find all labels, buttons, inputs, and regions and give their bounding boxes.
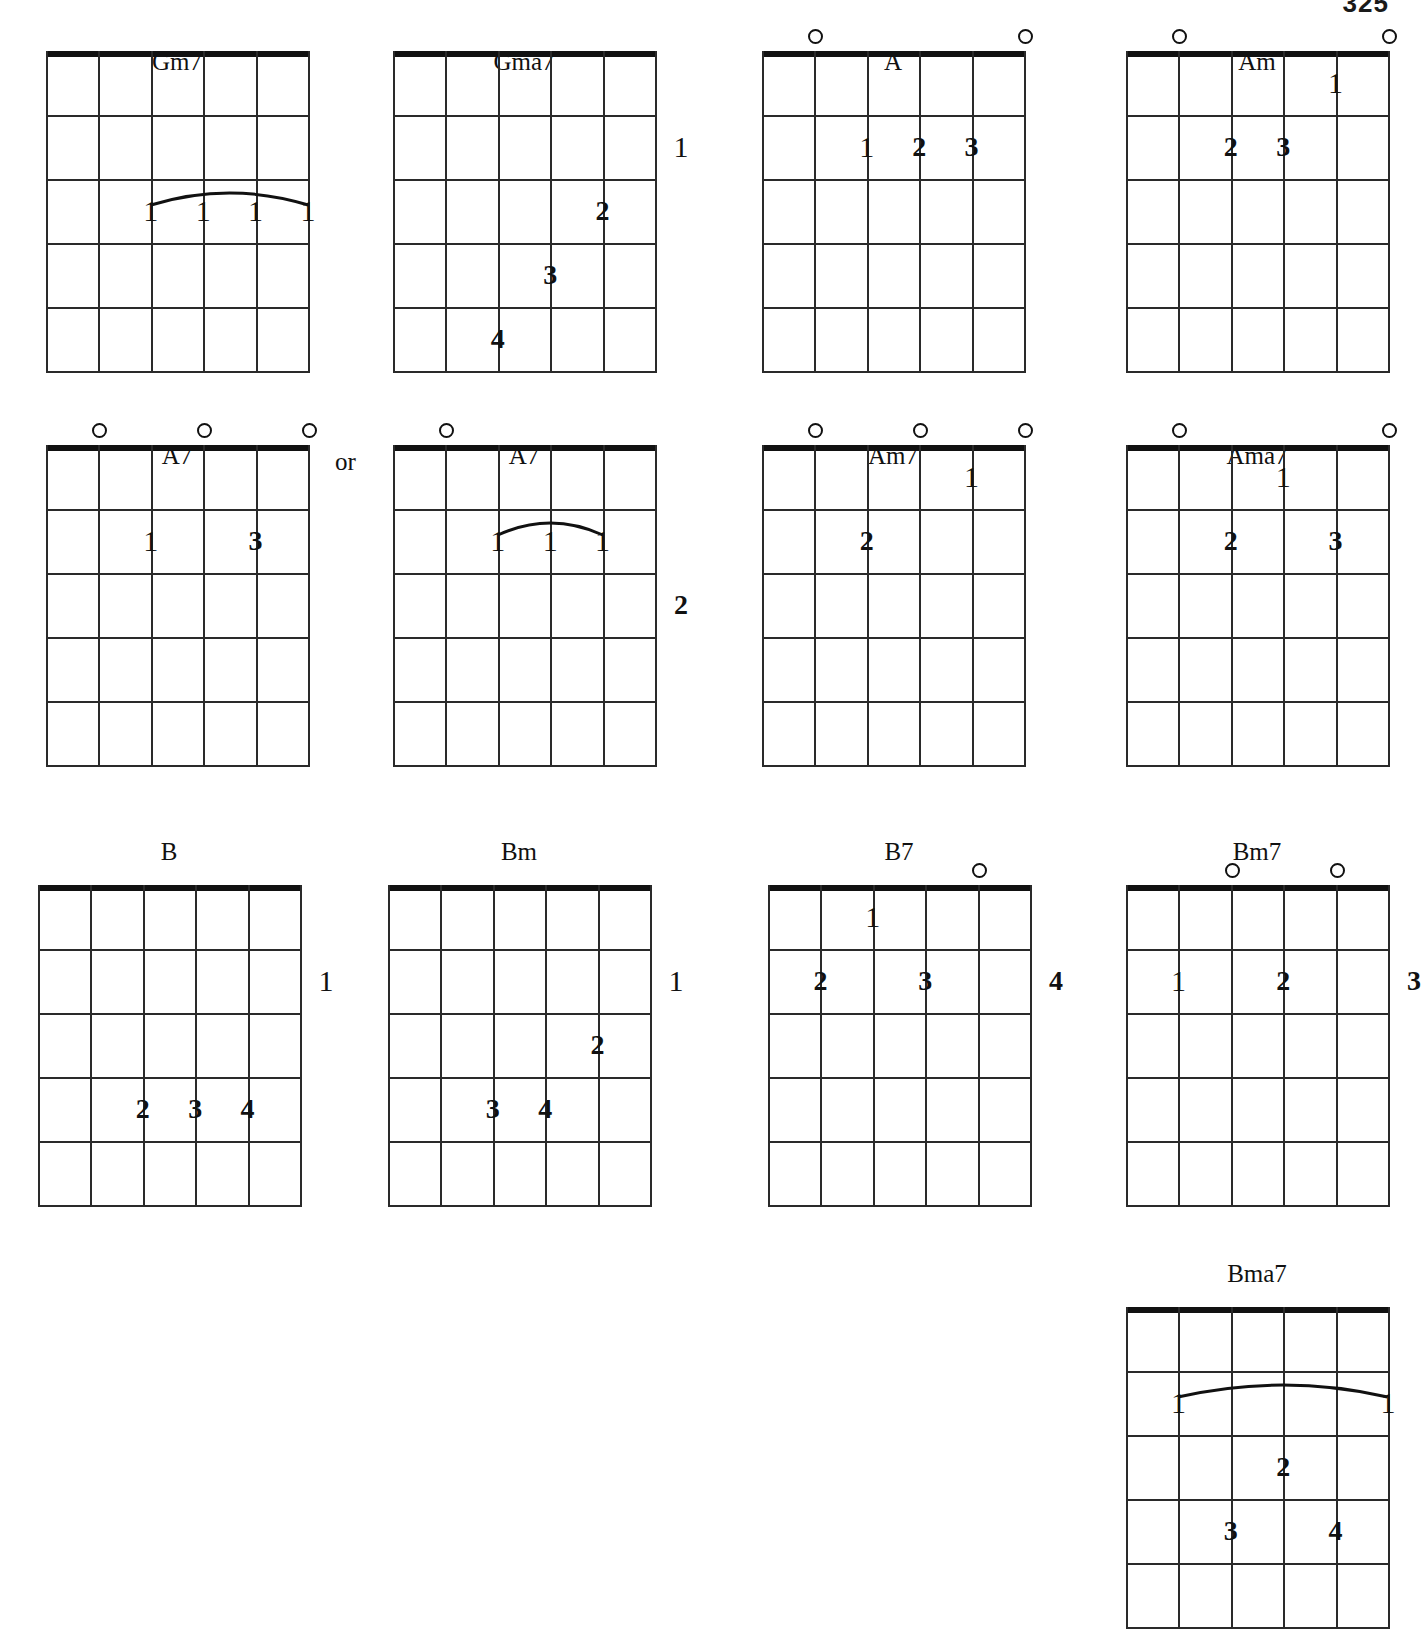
finger-number: 1	[656, 966, 696, 996]
fret-line	[768, 949, 1032, 951]
fret-line	[762, 637, 1026, 639]
string-line	[550, 51, 552, 373]
open-string-marker	[1172, 29, 1187, 44]
fret-line	[46, 307, 310, 309]
nut-line	[1126, 445, 1390, 451]
string-line	[498, 445, 500, 767]
finger-number: 4	[478, 325, 518, 353]
fret-line	[1126, 701, 1390, 703]
fretboard-grid: 13	[46, 445, 308, 765]
fret-line	[46, 243, 310, 245]
string-line	[1126, 445, 1128, 767]
fret-line	[1126, 243, 1390, 245]
fret-line	[393, 701, 657, 703]
string-line	[1178, 51, 1180, 373]
fret-line	[1126, 509, 1390, 511]
string-line	[440, 885, 442, 1207]
string-line	[820, 885, 822, 1207]
open-string-marker	[1018, 29, 1033, 44]
fret-line	[38, 1077, 302, 1079]
string-line	[493, 885, 495, 1207]
fret-line	[38, 949, 302, 951]
fret-line	[762, 115, 1026, 117]
fretboard-grid: 123	[1126, 445, 1388, 765]
finger-number: 3	[905, 967, 945, 995]
fret-line	[762, 765, 1026, 767]
fret-line	[1126, 949, 1390, 951]
fret-line	[388, 1141, 652, 1143]
fret-line	[46, 573, 310, 575]
string-line	[972, 51, 974, 373]
nut-line	[1126, 1307, 1390, 1313]
or-connector-label: or	[335, 448, 356, 476]
string-line	[1024, 445, 1026, 767]
string-line	[393, 51, 395, 373]
string-line	[445, 445, 447, 767]
fret-line	[762, 307, 1026, 309]
finger-number: 1	[306, 966, 346, 996]
finger-number: 1	[131, 196, 171, 226]
open-string-marker	[972, 863, 987, 878]
string-line	[1024, 51, 1026, 373]
finger-number: 3	[473, 1095, 513, 1123]
fretboard-grid: 1234	[768, 885, 1030, 1205]
string-line	[1030, 885, 1032, 1207]
fret-line	[1126, 637, 1390, 639]
fret-line	[1126, 307, 1390, 309]
open-string-marker	[808, 29, 823, 44]
nut-line	[46, 445, 310, 451]
chord-name-label: B7	[768, 838, 1030, 866]
open-string-marker	[439, 423, 454, 438]
fret-line	[762, 371, 1026, 373]
string-line	[195, 885, 197, 1207]
string-line	[1178, 445, 1180, 767]
finger-number: 1	[661, 132, 701, 162]
open-string-marker	[1382, 423, 1397, 438]
finger-number: 1	[1263, 462, 1303, 492]
finger-number: 1	[1316, 68, 1356, 98]
string-line	[655, 51, 657, 373]
string-line	[308, 445, 310, 767]
fret-line	[1126, 1141, 1390, 1143]
finger-number: 4	[1036, 967, 1076, 995]
string-line	[762, 445, 764, 767]
string-line	[655, 445, 657, 767]
page-number: 325	[1343, 0, 1389, 19]
finger-number: 2	[1263, 967, 1303, 995]
fret-line	[762, 243, 1026, 245]
string-line	[814, 445, 816, 767]
finger-number: 2	[847, 527, 887, 555]
nut-line	[393, 445, 657, 451]
finger-number: 2	[661, 591, 701, 619]
fret-line	[1126, 371, 1390, 373]
finger-number: 1	[952, 462, 992, 492]
string-line	[1126, 1307, 1128, 1629]
string-line	[1388, 445, 1390, 767]
fret-line	[388, 1013, 652, 1015]
string-line	[46, 445, 48, 767]
fret-line	[1126, 1499, 1390, 1501]
finger-number: 1	[183, 196, 223, 226]
string-line	[1388, 1307, 1390, 1629]
fret-line	[1126, 1013, 1390, 1015]
fret-line	[1126, 573, 1390, 575]
fretboard-grid: 1234	[388, 885, 650, 1205]
fret-line	[393, 115, 657, 117]
fret-line	[46, 765, 310, 767]
chord-name-label: Bma7	[1126, 1260, 1388, 1288]
fret-line	[1126, 1435, 1390, 1437]
nut-line	[1126, 51, 1390, 57]
fret-line	[46, 115, 310, 117]
fret-line	[1126, 115, 1390, 117]
fret-line	[393, 573, 657, 575]
nut-line	[762, 51, 1026, 57]
open-string-marker	[1225, 863, 1240, 878]
open-string-marker	[302, 423, 317, 438]
string-line	[1388, 51, 1390, 373]
fret-line	[393, 243, 657, 245]
string-line	[1126, 885, 1128, 1207]
string-line	[650, 885, 652, 1207]
string-line	[1283, 51, 1285, 373]
string-line	[1231, 445, 1233, 767]
chord-name-label: Bm	[388, 838, 650, 866]
